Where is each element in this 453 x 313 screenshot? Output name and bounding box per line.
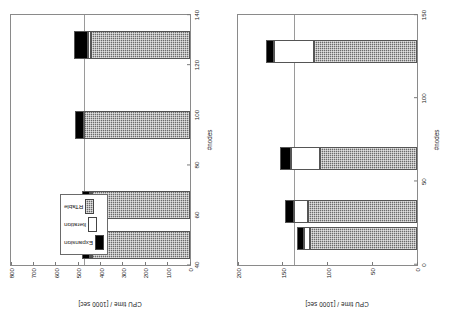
chart-left-bar-segment-expansion bbox=[74, 31, 88, 59]
chart-right-x-tick-mark bbox=[414, 97, 417, 98]
chart-right-y-tick-label: 200 bbox=[235, 265, 242, 278]
chart-left-y-tick-mark bbox=[11, 262, 12, 265]
chart-left-legend: ExpansionIterationRTable bbox=[60, 194, 108, 255]
chart-left-y-tick-label: 100 bbox=[164, 265, 171, 278]
chart-right-bar-segment-iteration bbox=[304, 227, 309, 250]
chart-left-x-tick-label: 100 bbox=[190, 110, 200, 120]
chart-left-y-tick-label: 300 bbox=[119, 265, 126, 278]
chart-left-legend-label: RTable bbox=[64, 203, 83, 209]
chart-right-bar-segment-expansion bbox=[297, 227, 304, 250]
chart-right-x-tick-label: 150 bbox=[417, 10, 427, 20]
chart-left-legend-label: Expansion bbox=[64, 239, 93, 245]
chart-right-bar-segment-rtable bbox=[310, 227, 417, 250]
chart-left-y-tick-label: 200 bbox=[142, 265, 149, 278]
chart-left-y-tick-mark bbox=[167, 262, 168, 265]
chart-left-y-axis-label: CPU time / [1000 sec] bbox=[78, 301, 141, 308]
chart-right-bar-segment-iteration bbox=[291, 147, 321, 170]
chart-left: CPU time / [1000 sec] #nodes 01002003004… bbox=[2, 6, 217, 306]
chart-left-x-tick-mark bbox=[187, 14, 190, 15]
chart-right-bar bbox=[280, 147, 417, 170]
chart-left-legend-swatch-iteration bbox=[88, 217, 97, 232]
chart-left-y-tick-mark bbox=[55, 262, 56, 265]
chart-left-y-tick-mark bbox=[78, 262, 79, 265]
chart-right-bar-segment-expansion bbox=[280, 147, 291, 170]
chart-left-y-tick-label: 800 bbox=[8, 265, 15, 278]
chart-left-x-tick-mark bbox=[187, 64, 190, 65]
chart-left-x-tick-label: 80 bbox=[190, 162, 200, 169]
chart-left-y-tick-label: 600 bbox=[52, 265, 59, 278]
chart-left-y-tick-label: 400 bbox=[97, 265, 104, 278]
chart-right-x-tick-label: 50 bbox=[417, 178, 427, 185]
chart-right-y-tick-mark bbox=[327, 262, 328, 265]
chart-right: CPU time / [1000 sec] #nodes 05010015020… bbox=[229, 6, 444, 306]
chart-right-y-tick-label: 50 bbox=[369, 265, 376, 275]
chart-left-x-tick-label: 120 bbox=[190, 60, 200, 70]
chart-right-x-tick-mark bbox=[414, 264, 417, 265]
chart-left-legend-label: Iteration bbox=[64, 221, 86, 227]
chart-right-y-tick-label: 150 bbox=[279, 265, 286, 278]
chart-right-bar-segment-rtable bbox=[314, 40, 417, 63]
chart-right-x-axis-label: #nodes bbox=[433, 14, 440, 266]
chart-left-x-tick-label: 60 bbox=[190, 212, 200, 219]
chart-left-plot-area: 0100200300400500600700800406080100120140… bbox=[10, 14, 191, 266]
chart-right-y-tick-label: 100 bbox=[324, 265, 331, 278]
chart-left-x-axis-label: #nodes bbox=[206, 14, 213, 266]
chart-left-y-tick-label: 700 bbox=[30, 265, 37, 278]
chart-right-bar-segment-expansion bbox=[266, 40, 274, 63]
chart-left-bar-segment-expansion bbox=[75, 111, 84, 139]
figure-stage: CPU time / [1000 sec] #nodes 01002003004… bbox=[0, 0, 453, 313]
chart-left-bar-segment-rtable bbox=[91, 31, 190, 59]
chart-left-y-tick-mark bbox=[122, 262, 123, 265]
chart-left-bar bbox=[75, 111, 190, 139]
chart-right-y-tick-mark bbox=[238, 262, 239, 265]
chart-left-y-tick-mark bbox=[100, 262, 101, 265]
chart-left-legend-item: Iteration bbox=[64, 217, 97, 232]
chart-right-bar bbox=[285, 200, 417, 223]
chart-left-legend-item: RTable bbox=[64, 199, 94, 214]
chart-right-plot-area: 050100150200050100150 bbox=[237, 14, 418, 266]
chart-right-bar-segment-iteration bbox=[294, 200, 308, 223]
chart-left-x-tick-mark bbox=[187, 164, 190, 165]
chart-right-bar bbox=[266, 40, 417, 63]
chart-left-bar-segment-rtable bbox=[84, 111, 190, 139]
chart-right-x-tick-label: 100 bbox=[417, 93, 427, 103]
chart-left-x-tick-label: 140 bbox=[190, 10, 200, 20]
chart-right-bar-segment-rtable bbox=[320, 147, 417, 170]
chart-left-y-tick-mark bbox=[145, 262, 146, 265]
chart-right-y-tick-mark bbox=[282, 262, 283, 265]
chart-right-y-axis-label: CPU time / [1000 sec] bbox=[305, 301, 368, 308]
chart-right-x-tick-mark bbox=[414, 181, 417, 182]
chart-right-bar bbox=[297, 227, 417, 250]
chart-left-y-tick-mark bbox=[33, 262, 34, 265]
chart-right-y-tick-mark bbox=[372, 262, 373, 265]
chart-left-legend-swatch-expansion bbox=[95, 235, 104, 250]
chart-left-y-tick-label: 500 bbox=[75, 265, 82, 278]
chart-left-bar bbox=[74, 31, 190, 59]
chart-left-x-tick-label: 40 bbox=[190, 262, 200, 269]
chart-left-x-tick-mark bbox=[187, 264, 190, 265]
chart-left-legend-swatch-rtable bbox=[85, 199, 94, 214]
chart-right-x-tick-label: 0 bbox=[417, 263, 427, 266]
chart-right-x-tick-mark bbox=[414, 14, 417, 15]
chart-left-legend-item: Expansion bbox=[64, 235, 104, 250]
chart-left-bar-segment-iteration bbox=[88, 31, 91, 59]
chart-right-bar-segment-expansion bbox=[285, 200, 294, 223]
chart-right-bar-segment-iteration bbox=[274, 40, 314, 63]
chart-right-bar-segment-rtable bbox=[308, 200, 417, 223]
